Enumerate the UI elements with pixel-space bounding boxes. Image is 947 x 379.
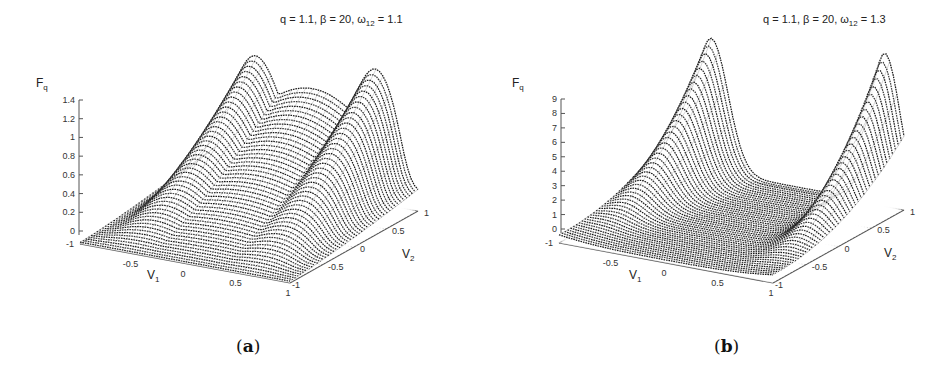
chart-panel-b: 0123456789-1-0.500.51-1-0.500.51 q = 1.1…: [473, 0, 947, 379]
y-tick-label: -1: [775, 280, 783, 290]
z-tick-label: 8: [552, 108, 557, 118]
corner-tick-label: -1: [66, 239, 74, 249]
y-tick-label: 0.5: [392, 226, 405, 236]
caption-paren: (: [236, 336, 243, 356]
z-tick-label: 6: [552, 137, 557, 147]
title-suffix: = 1.3: [858, 13, 886, 25]
z-tick-label: 3: [552, 181, 557, 191]
title-suffix: = 1.1: [375, 13, 403, 25]
xlabel-main: V: [629, 268, 637, 282]
title-subscript: 12: [366, 19, 375, 28]
surface-mesh: [559, 38, 904, 283]
caption-paren: (: [714, 336, 721, 356]
x-tick-label: 0: [661, 268, 666, 278]
surface-plot-a: 00.20.40.60.811.21.4-1-0.500.51-1-0.500.…: [0, 0, 473, 379]
y-tick-label: -1: [292, 280, 300, 290]
y-tick-label: 0: [845, 244, 850, 254]
z-tick-label: 1.2: [62, 114, 75, 124]
y-tick-label: -0.5: [328, 262, 344, 272]
z-tick-label: 0: [70, 226, 75, 236]
chart-panel-a: 00.20.40.60.811.21.4-1-0.500.51-1-0.500.…: [0, 0, 473, 379]
z-tick-label: 1.4: [62, 95, 75, 105]
zlabel-sub: q: [43, 83, 47, 92]
z-tick-label: 0.2: [62, 207, 75, 217]
z-axis-label-a: Fq: [36, 76, 48, 92]
xlabel-sub: 1: [155, 275, 159, 284]
xlabel-sub: 1: [637, 275, 641, 284]
z-tick-label: 4: [552, 166, 557, 176]
z-tick-label: 9: [552, 94, 557, 104]
z-tick-label: 7: [552, 123, 557, 133]
corner-tick-label: -1: [545, 238, 553, 248]
y-tick-label: 0.5: [877, 225, 890, 235]
title-subscript: 12: [849, 19, 858, 28]
zlabel-sub: q: [519, 83, 523, 92]
caption-b: (b): [714, 336, 739, 356]
x-axis-label-a: V1: [147, 268, 159, 284]
y-axis-label-b: V2: [884, 246, 896, 262]
ylabel-main: V: [884, 246, 892, 260]
ylabel-main: V: [402, 247, 410, 261]
z-tick-label: 5: [552, 152, 557, 162]
surface-mesh: [80, 56, 418, 283]
x-tick-label: 1: [768, 288, 773, 298]
caption-letter: b: [721, 336, 733, 356]
chart-title-a: q = 1.1, β = 20, ω12 = 1.1: [280, 13, 403, 28]
z-tick-label: 1: [70, 132, 75, 142]
z-tick-label: 0.4: [62, 189, 75, 199]
caption-paren: ): [733, 336, 740, 356]
x-tick-label: 1: [285, 288, 290, 298]
caption-letter: a: [243, 336, 254, 356]
z-tick-label: 0: [552, 224, 557, 234]
z-tick-label: 0.8: [62, 151, 75, 161]
x-tick-label: 0: [180, 269, 185, 279]
caption-a: (a): [236, 336, 260, 356]
title-text: q = 1.1, β = 20, ω: [280, 13, 366, 25]
x-tick-label: -0.5: [123, 259, 139, 269]
x-tick-label: 0.5: [229, 278, 242, 288]
ylabel-sub: 2: [892, 253, 896, 262]
y-tick-label: -0.5: [812, 262, 828, 272]
title-text: q = 1.1, β = 20, ω: [763, 13, 849, 25]
y-tick-label: 1: [424, 208, 429, 218]
x-axis-label-b: V1: [629, 268, 641, 284]
surface-plot-b: 0123456789-1-0.500.51-1-0.500.51: [473, 0, 947, 379]
xlabel-main: V: [147, 268, 155, 282]
y-tick-label: 0: [360, 244, 365, 254]
x-tick-label: -0.5: [603, 258, 619, 268]
chart-title-b: q = 1.1, β = 20, ω12 = 1.3: [763, 13, 886, 28]
z-tick-label: 1: [552, 210, 557, 220]
z-tick-label: 0.6: [62, 170, 75, 180]
y-tick-label: 1: [910, 207, 915, 217]
ylabel-sub: 2: [410, 254, 414, 263]
caption-paren: ): [254, 336, 261, 356]
x-tick-label: 0.5: [711, 278, 724, 288]
y-axis-label-a: V2: [402, 247, 414, 263]
z-axis-label-b: Fq: [512, 76, 524, 92]
z-tick-label: 2: [552, 195, 557, 205]
